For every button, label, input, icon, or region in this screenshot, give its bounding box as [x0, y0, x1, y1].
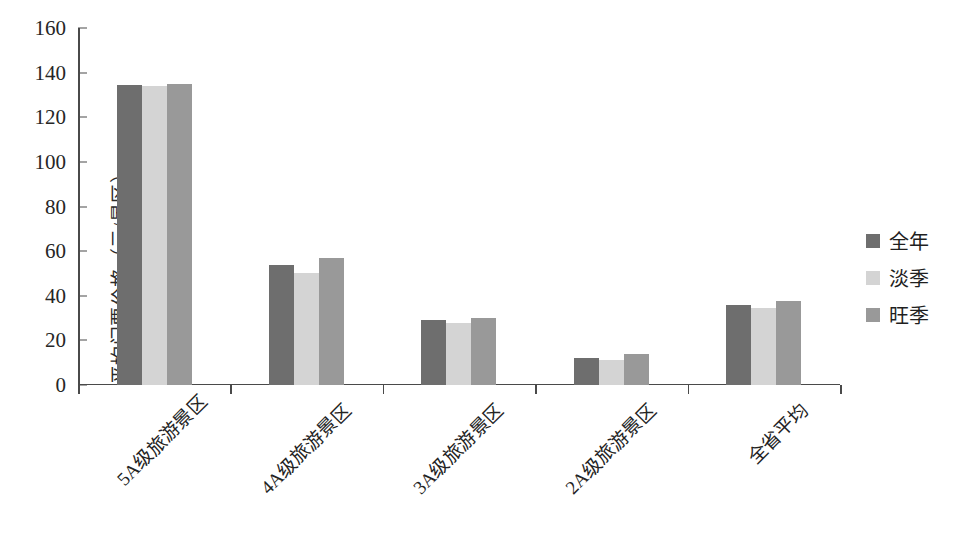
- bar-全省平均-全年: [726, 305, 751, 385]
- x-axis-label-5A级旅游景区: 5A级旅游景区: [109, 396, 203, 490]
- x-axis-tick: [840, 385, 842, 394]
- legend-label: 全年: [889, 226, 929, 255]
- bar-group: [535, 28, 687, 385]
- bar-5A级旅游景区-淡季: [142, 86, 167, 385]
- bar-2A级旅游景区-旺季: [624, 354, 649, 385]
- y-tick-label: 100: [35, 149, 67, 174]
- y-tick-label: 40: [45, 283, 66, 308]
- legend-item-旺季[interactable]: 旺季: [866, 296, 966, 333]
- bar-group: [230, 28, 382, 385]
- bars-layer: [78, 28, 840, 385]
- bar-3A级旅游景区-全年: [421, 320, 446, 385]
- legend-swatch-icon: [866, 271, 880, 285]
- chart-legend: 全年淡季旺季: [866, 222, 966, 333]
- bar-group: [688, 28, 840, 385]
- y-tick-label: 60: [45, 239, 66, 264]
- bar-chart: 平均门票价格（元/景区） 160140120100806040200 5A级旅游…: [0, 0, 970, 547]
- bar-3A级旅游景区-淡季: [446, 323, 471, 385]
- legend-swatch-icon: [866, 234, 880, 248]
- bar-2A级旅游景区-全年: [574, 358, 599, 385]
- y-tick-label: 120: [35, 105, 67, 130]
- plot-area: 160140120100806040200: [78, 28, 840, 385]
- y-tick-label: 20: [45, 328, 66, 353]
- bar-4A级旅游景区-淡季: [294, 273, 319, 385]
- x-axis-label-2A级旅游景区: 2A级旅游景区: [243, 396, 660, 547]
- y-tick-label: 160: [35, 16, 67, 41]
- bar-group: [78, 28, 230, 385]
- legend-label: 旺季: [889, 300, 929, 329]
- bar-5A级旅游景区-旺季: [167, 84, 192, 385]
- bar-4A级旅游景区-全年: [269, 265, 294, 385]
- y-tick-label: 80: [45, 194, 66, 219]
- legend-item-全年[interactable]: 全年: [866, 222, 966, 259]
- bar-4A级旅游景区-旺季: [319, 258, 344, 385]
- bar-3A级旅游景区-旺季: [471, 318, 496, 385]
- y-tick-label: 140: [35, 60, 67, 85]
- legend-swatch-icon: [866, 308, 880, 322]
- bar-全省平均-淡季: [751, 308, 776, 385]
- bar-全省平均-旺季: [776, 301, 801, 385]
- y-tick-label: 0: [56, 373, 67, 398]
- bar-2A级旅游景区-淡季: [599, 360, 624, 385]
- bar-group: [383, 28, 535, 385]
- bar-5A级旅游景区-全年: [117, 85, 142, 385]
- legend-label: 淡季: [889, 263, 929, 292]
- legend-item-淡季[interactable]: 淡季: [866, 259, 966, 296]
- x-axis-labels: 5A级旅游景区4A级旅游景区3A级旅游景区2A级旅游景区全省平均: [78, 392, 840, 532]
